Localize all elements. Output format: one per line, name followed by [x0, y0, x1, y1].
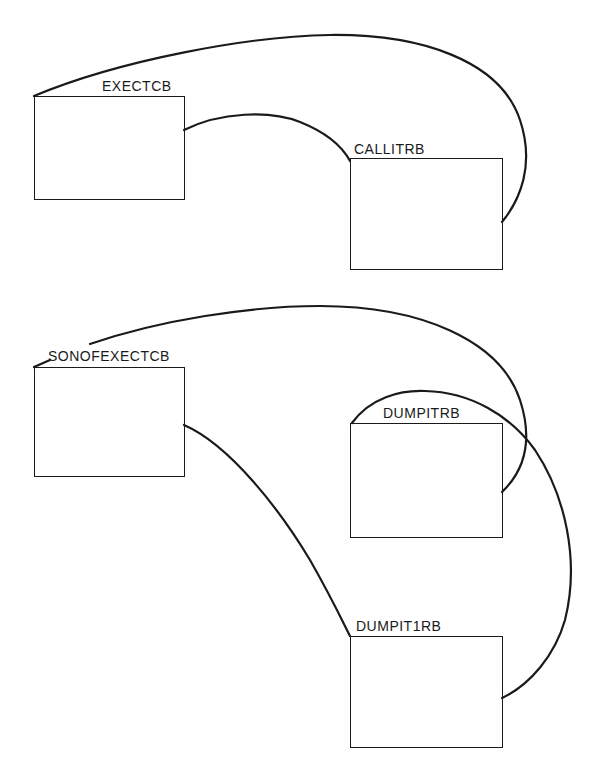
- label-exectcb: EXECTCB: [102, 79, 172, 93]
- box-dumpitrb: [350, 423, 503, 538]
- label-dumpitrb: DUMPITRB: [383, 406, 460, 420]
- edge-sonofexectcb-dumpit1rb: [184, 425, 350, 636]
- box-exectcb: [34, 96, 185, 200]
- box-callitrb: [350, 158, 503, 270]
- label-callitrb: CALLITRB: [354, 142, 425, 156]
- edge-exectcb-callitrb-direct: [184, 114, 350, 161]
- box-sonofexectcb: [34, 367, 185, 477]
- label-sonofexectcb: SONOFEXECTCB: [48, 349, 170, 363]
- box-dumpit1rb: [350, 636, 503, 748]
- label-dumpit1rb: DUMPIT1RB: [356, 619, 441, 633]
